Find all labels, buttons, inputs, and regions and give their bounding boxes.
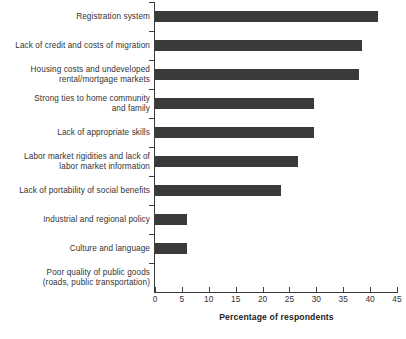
bar [155, 214, 187, 225]
bar-row: Labor market rigidities and lack of labo… [0, 147, 406, 176]
bar-row: Lack of portability of social benefits [0, 176, 406, 205]
x-axis-tick [155, 287, 156, 292]
x-axis-tick [289, 287, 290, 292]
x-axis-tick-label: 30 [304, 294, 328, 304]
x-axis-tick-label: 5 [170, 294, 194, 304]
category-label: Lack of credit and costs of migration [2, 41, 150, 51]
bar [155, 185, 281, 196]
x-axis-tick-label: 45 [385, 294, 406, 304]
x-axis-tick-label: 25 [277, 294, 301, 304]
bar [155, 98, 314, 109]
category-label: Industrial and regional policy [2, 215, 150, 225]
x-axis-tick-label: 35 [331, 294, 355, 304]
y-axis-tick [149, 263, 154, 264]
x-axis-tick [182, 287, 183, 292]
y-axis-tick [149, 147, 154, 148]
bar-track [155, 89, 397, 118]
bar-row: Culture and language [0, 234, 406, 263]
bar-chart: Registration systemLack of credit and co… [0, 0, 406, 339]
bar-track [155, 2, 397, 31]
bar-row: Lack of appropriate skills [0, 118, 406, 147]
x-axis-tick [370, 287, 371, 292]
bar-row: Poor quality of public goods (roads, pub… [0, 263, 406, 292]
y-axis-tick [149, 205, 154, 206]
bar [155, 156, 298, 167]
bar-track [155, 263, 397, 292]
category-label: Culture and language [2, 244, 150, 254]
bar-row: Lack of credit and costs of migration [0, 31, 406, 60]
category-label: Registration system [2, 12, 150, 22]
bar-track [155, 60, 397, 89]
x-axis-tick [316, 287, 317, 292]
y-axis-tick [149, 89, 154, 90]
y-axis-tick [149, 2, 154, 3]
bar-row: Registration system [0, 2, 406, 31]
x-axis-tick-label: 40 [358, 294, 382, 304]
bar [155, 69, 359, 80]
bar-track [155, 147, 397, 176]
y-axis-tick [149, 31, 154, 32]
bar [155, 127, 314, 138]
bar [155, 11, 378, 22]
x-axis-tick [209, 287, 210, 292]
bar-track [155, 205, 397, 234]
x-axis-tick [343, 287, 344, 292]
category-label: Poor quality of public goods (roads, pub… [2, 268, 150, 287]
y-axis-tick [149, 118, 154, 119]
y-axis-tick [149, 176, 154, 177]
bar-row: Housing costs and undeveloped rental/mor… [0, 60, 406, 89]
category-label: Strong ties to home community and family [2, 94, 150, 113]
x-axis-tick [397, 287, 398, 292]
category-label: Lack of appropriate skills [2, 128, 150, 138]
y-axis-tick [149, 60, 154, 61]
bar-track [155, 176, 397, 205]
x-axis-tick-label: 15 [224, 294, 248, 304]
category-label: Housing costs and undeveloped rental/mor… [2, 65, 150, 84]
bar-row: Industrial and regional policy [0, 205, 406, 234]
x-axis-tick-label: 10 [197, 294, 221, 304]
y-axis-tick [149, 234, 154, 235]
bar [155, 40, 362, 51]
category-label: Labor market rigidities and lack of labo… [2, 152, 150, 171]
x-axis-tick-label: 20 [251, 294, 275, 304]
category-label: Lack of portability of social benefits [2, 186, 150, 196]
x-axis-tick [263, 287, 264, 292]
x-axis-title: Percentage of respondents [155, 312, 398, 322]
x-axis-line [155, 292, 398, 293]
bar-row: Strong ties to home community and family [0, 89, 406, 118]
x-axis-tick [236, 287, 237, 292]
chart-rows: Registration systemLack of credit and co… [0, 2, 406, 292]
bar-track [155, 118, 397, 147]
x-axis-tick-label: 0 [143, 294, 167, 304]
bar [155, 243, 187, 254]
bar-track [155, 234, 397, 263]
bar-track [155, 31, 397, 60]
